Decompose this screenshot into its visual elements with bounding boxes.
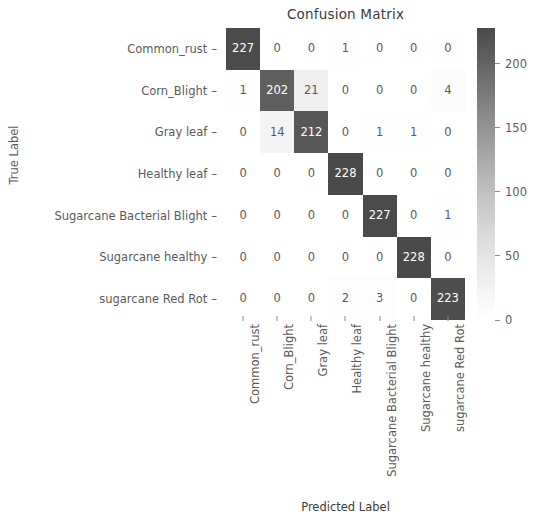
heatmap-cell: 0 <box>226 195 260 237</box>
heatmap-cell: 227 <box>363 195 397 237</box>
y-tick-mark: – <box>207 42 217 56</box>
y-tick-mark: – <box>207 292 217 306</box>
x-tick-mark <box>311 316 312 321</box>
heatmap-cell: 0 <box>226 111 260 153</box>
heatmap-cell: 0 <box>363 153 397 195</box>
heatmap-cell: 0 <box>294 195 328 237</box>
heatmap-cell: 1 <box>397 111 431 153</box>
y-tick-label: Sugarcane healthy– <box>0 237 219 279</box>
heatmap-cell: 14 <box>260 111 294 153</box>
colorbar-tick-text: 50 <box>505 249 520 263</box>
y-tick-mark: – <box>207 125 217 139</box>
heatmap-cell: 212 <box>294 111 328 153</box>
x-tick-mark <box>447 316 448 321</box>
y-tick-label: Corn_Blight– <box>0 70 219 112</box>
heatmap-cell: 0 <box>260 195 294 237</box>
y-tick-label-text: sugarcane Red Rot <box>99 292 207 306</box>
heatmap-cell: 0 <box>431 153 465 195</box>
heatmap-cell: 227 <box>226 28 260 70</box>
y-tick-label-text: Corn_Blight <box>141 84 207 98</box>
heatmap-cell: 223 <box>431 278 465 320</box>
heatmap-cell: 2 <box>328 278 362 320</box>
heatmap-cell: 0 <box>260 278 294 320</box>
heatmap-cell: 0 <box>397 195 431 237</box>
heatmap-cell: 0 <box>260 153 294 195</box>
confusion-matrix-figure: Confusion Matrix True Label Common_rust–… <box>0 0 537 521</box>
colorbar-tick-mark <box>495 255 500 256</box>
colorbar-tick: 0 <box>495 313 512 327</box>
x-tick-slot: Corn_Blight <box>260 320 294 495</box>
colorbar-tick-text: 150 <box>505 121 527 135</box>
x-tick-mark <box>243 316 244 321</box>
page-title: Confusion Matrix <box>226 6 465 22</box>
heatmap-cell: 0 <box>294 28 328 70</box>
colorbar-tick-mark <box>495 320 500 321</box>
heatmap-cell: 228 <box>397 237 431 279</box>
heatmap-cell: 21 <box>294 70 328 112</box>
heatmap-cell: 0 <box>431 28 465 70</box>
y-tick-label-text: Gray leaf <box>155 125 208 139</box>
heatmap-cell: 1 <box>431 195 465 237</box>
heatmap-cell: 0 <box>260 237 294 279</box>
heatmap-cell: 0 <box>260 28 294 70</box>
heatmap-cell: 228 <box>328 153 362 195</box>
heatmap-cell: 1 <box>226 70 260 112</box>
x-tick-label: sugarcane Red Rot <box>453 324 467 432</box>
heatmap-cell: 0 <box>431 237 465 279</box>
colorbar-tick-mark <box>495 63 500 64</box>
heatmap-cell: 0 <box>328 195 362 237</box>
y-tick-label: Common_rust– <box>0 28 219 70</box>
y-tick-mark: – <box>207 167 217 181</box>
x-tick-slot: Sugarcane Bacterial Blight <box>363 320 397 495</box>
x-tick-slot: Common_rust <box>226 320 260 495</box>
heatmap-cell: 0 <box>226 237 260 279</box>
y-tick-label: sugarcane Red Rot– <box>0 278 219 320</box>
y-tick-label-text: Healthy leaf <box>138 167 208 181</box>
y-tick-label-text: Sugarcane healthy <box>99 250 207 264</box>
heatmap-cell: 0 <box>294 153 328 195</box>
heatmap-cell: 0 <box>328 111 362 153</box>
heatmap-cell: 0 <box>397 278 431 320</box>
y-tick-label: Sugarcane Bacterial Blight– <box>0 195 219 237</box>
x-tick-mark <box>413 316 414 321</box>
y-tick-label: Healthy leaf– <box>0 153 219 195</box>
colorbar-tick: 50 <box>495 249 520 263</box>
colorbar-tick-text: 100 <box>505 185 527 199</box>
heatmap-cell: 0 <box>226 153 260 195</box>
y-tick-mark: – <box>207 209 217 223</box>
x-tick-mark <box>379 316 380 321</box>
heatmap-cell: 0 <box>328 237 362 279</box>
x-axis-tick-labels: Common_rustCorn_BlightGray leafHealthy l… <box>226 320 465 495</box>
heatmap-cell: 0 <box>294 237 328 279</box>
colorbar-tick-mark <box>495 191 500 192</box>
heatmap-cell: 0 <box>226 278 260 320</box>
colorbar-tick-labels: 050100150200 <box>495 28 537 320</box>
heatmap-cell: 0 <box>294 278 328 320</box>
heatmap-cell: 1 <box>363 111 397 153</box>
heatmap-cell: 3 <box>363 278 397 320</box>
y-tick-mark: – <box>207 84 217 98</box>
y-tick-label-text: Sugarcane Bacterial Blight <box>54 209 207 223</box>
colorbar-tick: 200 <box>495 57 527 71</box>
colorbar-tick: 150 <box>495 121 527 135</box>
colorbar-gradient <box>477 28 495 320</box>
x-tick-slot: Sugarcane healthy <box>397 320 431 495</box>
heatmap-cell: 0 <box>363 237 397 279</box>
heatmap-cell: 0 <box>363 28 397 70</box>
colorbar-tick-text: 0 <box>505 313 512 327</box>
colorbar-tick: 100 <box>495 185 527 199</box>
colorbar-tick-text: 200 <box>505 57 527 71</box>
x-tick-slot: Healthy leaf <box>328 320 362 495</box>
heatmap-cell: 1 <box>328 28 362 70</box>
heatmap-cell: 4 <box>431 70 465 112</box>
x-tick-mark <box>277 316 278 321</box>
x-tick-slot: sugarcane Red Rot <box>431 320 465 495</box>
colorbar-tick-mark <box>495 127 500 128</box>
x-tick-slot: Gray leaf <box>294 320 328 495</box>
heatmap-cell: 0 <box>397 28 431 70</box>
heatmap-cell: 202 <box>260 70 294 112</box>
y-tick-label: Gray leaf– <box>0 111 219 153</box>
x-tick-mark <box>345 316 346 321</box>
heatmap-cell: 0 <box>328 70 362 112</box>
heatmap-grid: 2270010001202210004014212011000022800000… <box>226 28 465 320</box>
